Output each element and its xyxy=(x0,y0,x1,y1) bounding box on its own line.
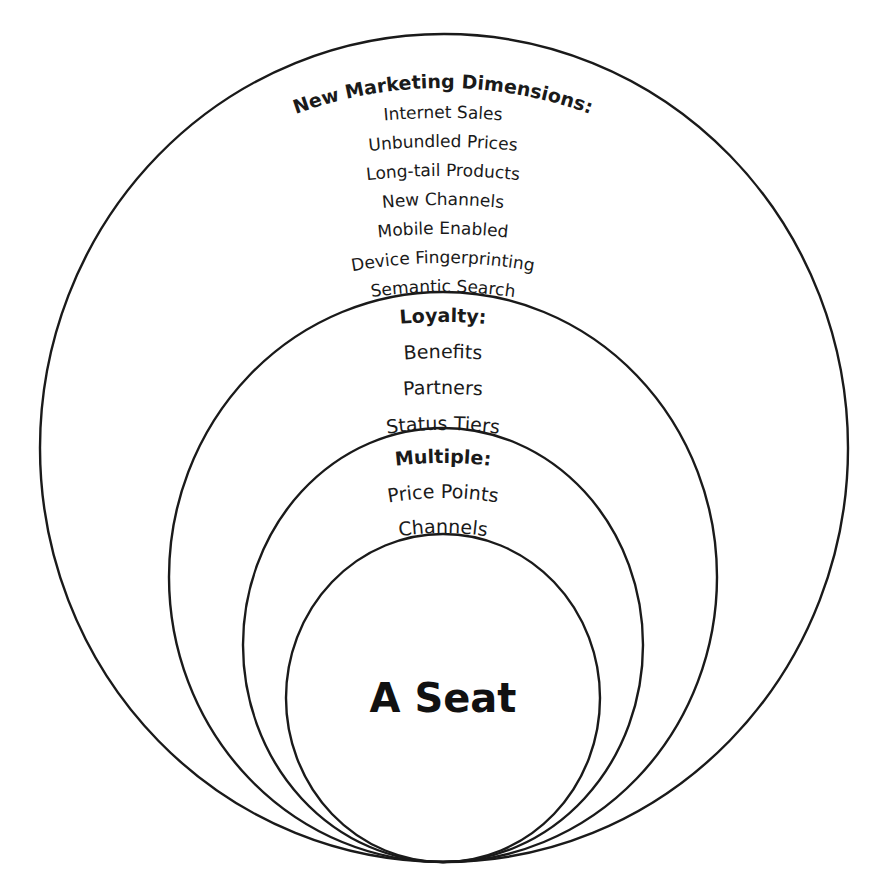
loyalty-item: Partners xyxy=(402,376,483,400)
multiple-heading: Multiple: xyxy=(394,445,493,470)
multiple-ring-labels: Multiple: Price Points Channels xyxy=(386,445,501,540)
outer-ring-labels: New Marketing Dimensions: Internet Sales… xyxy=(290,70,596,301)
outer-item: Semantic Search xyxy=(369,276,516,301)
outer-item: Internet Sales xyxy=(383,102,504,124)
outer-item: Mobile Enabled xyxy=(377,218,510,241)
outer-item: New Channels xyxy=(381,189,505,212)
core-label: A Seat xyxy=(370,675,517,721)
multiple-item: Price Points xyxy=(386,480,501,507)
multiple-item: Channels xyxy=(397,515,489,540)
loyalty-ring-labels: Loyalty: Benefits Partners Status Tiers xyxy=(385,304,501,438)
nested-circles-diagram: New Marketing Dimensions: Internet Sales… xyxy=(0,0,875,888)
loyalty-item: Status Tiers xyxy=(385,412,501,438)
outer-item: Long-tail Products xyxy=(365,160,521,184)
outer-item: Device Fingerprinting xyxy=(350,247,537,275)
outer-item: Unbundled Prices xyxy=(367,131,518,155)
loyalty-item: Benefits xyxy=(403,340,483,364)
loyalty-heading: Loyalty: xyxy=(399,304,488,328)
